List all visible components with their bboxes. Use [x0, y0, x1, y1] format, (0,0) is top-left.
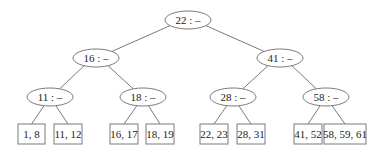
tree-leaf-nodes: 1, 811, 1216, 1718, 1922, 2328, 3141, 52… — [18, 124, 367, 144]
tree-edge — [60, 66, 85, 89]
tree-edge — [308, 106, 320, 124]
leaf-node: 41, 52 — [294, 124, 322, 144]
internal-node: 41 : – — [257, 49, 303, 67]
node-label: 18 : – — [130, 91, 156, 103]
leaf-label: 28, 31 — [237, 128, 265, 140]
tree-edge — [112, 26, 170, 52]
node-label: 11 : – — [38, 91, 63, 103]
internal-node: 58 : – — [303, 88, 349, 106]
internal-node: 16 : – — [73, 49, 119, 67]
node-label: 22 : – — [175, 14, 201, 26]
tree-edge — [149, 106, 160, 124]
tree-internal-nodes: 22 : –16 : –41 : –11 : –18 : –28 : –58 :… — [27, 11, 349, 106]
tree-edge — [108, 66, 133, 89]
tree-edge — [206, 26, 264, 52]
leaf-node: 11, 12 — [54, 124, 82, 144]
tree-edge — [32, 106, 45, 124]
node-label: 16 : – — [83, 52, 109, 64]
tree-edge — [243, 66, 268, 89]
leaf-label: 22, 23 — [200, 128, 228, 140]
leaf-node: 28, 31 — [237, 124, 265, 144]
leaf-node: 1, 8 — [18, 124, 45, 144]
leaf-label: 1, 8 — [23, 128, 40, 140]
leaf-node: 16, 17 — [110, 124, 138, 144]
leaf-label: 41, 52 — [294, 128, 322, 140]
tree-edge — [239, 106, 251, 124]
tree-diagram: 22 : –16 : –41 : –11 : –18 : –28 : –58 :… — [0, 0, 378, 156]
node-label: 28 : – — [220, 91, 246, 103]
internal-node: 11 : – — [27, 88, 73, 106]
leaf-label: 58, 59, 61 — [323, 128, 367, 140]
leaf-label: 18, 19 — [146, 128, 174, 140]
node-label: 58 : – — [313, 91, 339, 103]
internal-node: 18 : – — [120, 88, 166, 106]
internal-node: 28 : – — [210, 88, 256, 106]
tree-edge — [214, 106, 227, 124]
internal-node: 22 : – — [165, 11, 211, 29]
leaf-label: 11, 12 — [54, 128, 81, 140]
leaf-node: 22, 23 — [200, 124, 228, 144]
tree-edge — [56, 106, 68, 124]
leaf-node: 58, 59, 61 — [323, 124, 367, 144]
tree-edge — [332, 106, 345, 124]
tree-edges — [32, 26, 346, 124]
node-label: 41 : – — [267, 52, 293, 64]
tree-edge — [292, 66, 317, 89]
leaf-node: 18, 19 — [146, 124, 174, 144]
tree-edge — [124, 106, 137, 124]
leaf-label: 16, 17 — [110, 128, 138, 140]
